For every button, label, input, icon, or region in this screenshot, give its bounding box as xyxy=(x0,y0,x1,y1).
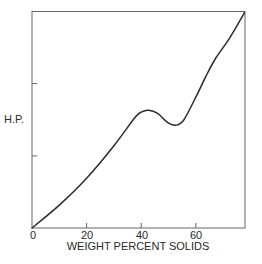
y-axis-title: H.P. xyxy=(4,113,24,125)
plot-frame xyxy=(32,12,245,229)
x-tick-label-0: 0 xyxy=(30,229,36,241)
hp-curve-line xyxy=(32,13,245,228)
y-axis-ticks xyxy=(32,84,37,156)
x-axis-title: WEIGHT PERCENT SOLIDS xyxy=(67,240,210,252)
chart-canvas xyxy=(0,0,262,264)
x-axis-ticks xyxy=(87,223,196,228)
